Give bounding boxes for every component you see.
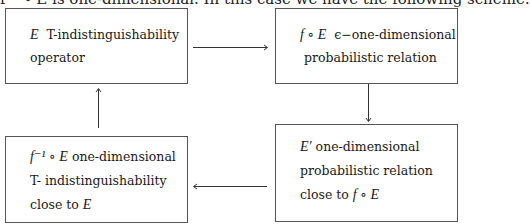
arrow-left-icon bbox=[194, 184, 268, 189]
arrow-down-icon bbox=[366, 84, 371, 122]
arrow-up-icon bbox=[96, 89, 101, 129]
arrow-right-icon bbox=[193, 45, 268, 50]
